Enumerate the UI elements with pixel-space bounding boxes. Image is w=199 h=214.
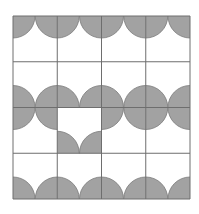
quarter-circle-left	[0, 177, 35, 214]
grid-lines	[13, 16, 190, 199]
tile-grid	[0, 0, 199, 214]
quarter-circle-right	[168, 0, 199, 38]
quarter-circle-right	[168, 177, 199, 214]
tile-grid-figure	[0, 0, 199, 214]
quarter-circle-left	[0, 0, 35, 38]
